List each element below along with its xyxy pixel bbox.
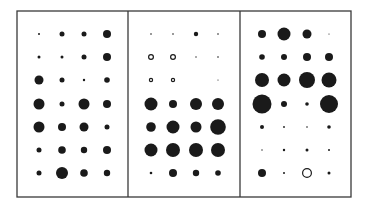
filled-dot: [82, 32, 87, 37]
filled-dot: [83, 79, 85, 81]
filled-dot: [146, 122, 156, 132]
open-dot: [149, 78, 152, 81]
chart-panels: [34, 28, 339, 180]
filled-dot: [281, 101, 287, 107]
filled-dot: [299, 72, 315, 88]
filled-dot: [104, 170, 110, 176]
filled-dot: [320, 95, 338, 113]
filled-dot: [150, 172, 153, 175]
filled-dot: [189, 143, 203, 157]
filled-dot: [60, 32, 65, 37]
filled-dot: [283, 172, 285, 174]
filled-dot: [217, 79, 218, 80]
filled-dot: [56, 167, 68, 179]
filled-dot: [303, 30, 312, 39]
filled-dot: [281, 54, 287, 60]
filled-dot: [172, 33, 174, 35]
dot-matrix-chart: [0, 0, 366, 210]
panel-3: [253, 28, 339, 178]
filled-dot: [82, 55, 87, 60]
chart-frame: [17, 11, 351, 197]
filled-dot: [194, 32, 198, 36]
filled-dot: [34, 122, 45, 133]
filled-dot: [328, 172, 331, 175]
filled-dot: [80, 123, 89, 132]
filled-dot: [283, 126, 285, 128]
filled-dot: [261, 149, 262, 150]
filled-dot: [210, 119, 226, 135]
filled-dot: [60, 78, 65, 83]
filled-dot: [255, 73, 269, 87]
filled-dot: [328, 33, 329, 34]
filled-dot: [166, 143, 180, 157]
filled-dot: [145, 144, 158, 157]
filled-dot: [190, 98, 202, 110]
filled-dot: [303, 53, 311, 61]
filled-dot: [258, 169, 266, 177]
open-dot: [303, 169, 312, 178]
filled-dot: [325, 53, 333, 61]
filled-dot: [37, 148, 42, 153]
open-dot: [171, 55, 176, 60]
open-dot: [171, 78, 174, 81]
filled-dot: [191, 122, 202, 133]
filled-dot: [217, 33, 219, 35]
filled-dot: [104, 77, 110, 83]
filled-dot: [80, 169, 88, 177]
filled-dot: [35, 76, 44, 85]
filled-dot: [195, 56, 196, 57]
filled-dot: [145, 98, 158, 111]
filled-dot: [278, 28, 291, 41]
filled-dot: [258, 30, 266, 38]
filled-dot: [60, 102, 65, 107]
filled-dot: [169, 169, 177, 177]
panel-1: [34, 30, 112, 179]
filled-dot: [61, 56, 64, 59]
filled-dot: [211, 143, 225, 157]
filled-dot: [322, 73, 337, 88]
filled-dot: [283, 149, 285, 151]
open-dot: [149, 55, 154, 60]
filled-dot: [305, 102, 309, 106]
panel-2: [145, 32, 226, 177]
filled-dot: [38, 56, 41, 59]
filled-dot: [38, 33, 40, 35]
filled-dot: [103, 100, 111, 108]
filled-dot: [306, 149, 309, 152]
filled-dot: [328, 149, 330, 151]
filled-dot: [58, 146, 66, 154]
filled-dot: [278, 74, 291, 87]
filled-dot: [169, 100, 177, 108]
filled-dot: [167, 121, 180, 134]
filled-dot: [37, 171, 42, 176]
filled-dot: [150, 33, 152, 35]
filled-dot: [193, 170, 199, 176]
filled-dot: [217, 56, 219, 58]
filled-dot: [212, 98, 224, 110]
filled-dot: [79, 99, 90, 110]
filled-dot: [103, 53, 111, 61]
filled-dot: [105, 125, 110, 130]
filled-dot: [34, 99, 45, 110]
filled-dot: [253, 95, 272, 114]
filled-dot: [81, 147, 87, 153]
filled-dot: [259, 54, 265, 60]
filled-dot: [327, 125, 331, 129]
filled-dot: [260, 125, 264, 129]
filled-dot: [58, 123, 66, 131]
filled-dot: [215, 170, 221, 176]
filled-dot: [103, 146, 111, 154]
filled-dot: [306, 126, 308, 128]
filled-dot: [103, 30, 111, 38]
outer-frame: [17, 11, 351, 197]
